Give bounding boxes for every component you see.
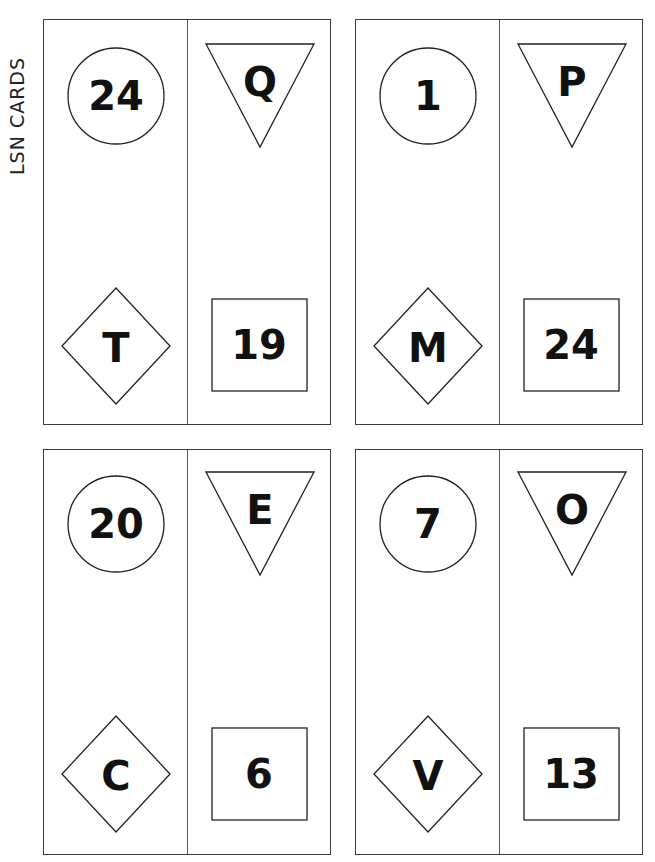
diamond-value: T bbox=[66, 328, 166, 368]
triangle-value: O bbox=[518, 490, 626, 530]
circle-value: 20 bbox=[66, 504, 166, 544]
circle-value: 1 bbox=[378, 76, 478, 116]
diamond-value: M bbox=[378, 328, 478, 368]
circle-value: 7 bbox=[378, 504, 478, 544]
triangle-value: P bbox=[518, 62, 626, 102]
square-value: 6 bbox=[211, 754, 307, 794]
square-value: 24 bbox=[523, 325, 619, 365]
diamond-value: V bbox=[378, 756, 478, 796]
diamond-value: C bbox=[66, 756, 166, 796]
card-bottom-left: 20 E C 6 bbox=[43, 449, 331, 855]
card-bottom-right: 7 O V 13 bbox=[355, 449, 643, 855]
card-top-right: 1 P M 24 bbox=[355, 19, 643, 425]
side-label: LSN CARDS bbox=[6, 57, 28, 175]
square-value: 19 bbox=[211, 325, 307, 365]
circle-value: 24 bbox=[66, 76, 166, 116]
card-top-left: 24 Q T 19 bbox=[43, 19, 331, 425]
triangle-value: Q bbox=[206, 62, 314, 102]
triangle-value: E bbox=[206, 490, 314, 530]
square-value: 13 bbox=[523, 754, 619, 794]
